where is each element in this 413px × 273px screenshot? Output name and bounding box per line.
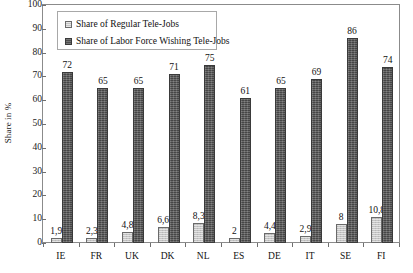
y-axis-tick-label: 0 (8, 238, 42, 248)
x-axis-tick-mark (399, 243, 400, 247)
bar-value-label: 65 (268, 77, 293, 87)
x-axis-label-it: IT (292, 252, 328, 262)
bar-value-label: 72 (55, 61, 80, 71)
legend-item-regular-tele-jobs: Share of Regular Tele-Jobs (65, 17, 210, 32)
x-axis-tick-mark (114, 243, 115, 247)
legend: Share of Regular Tele-Jobs Share of Labo… (57, 11, 217, 50)
bar-value-label: 71 (162, 63, 187, 73)
bar-value-label: 65 (90, 77, 115, 87)
y-axis-tick-mark (42, 124, 46, 125)
legend-swatch-icon-light (65, 21, 72, 28)
y-axis-tick-label: 80 (8, 48, 42, 58)
bar-chart: Share in % 1009080706050403020100 1,9722… (0, 0, 413, 273)
x-axis-label-fr: FR (79, 252, 115, 262)
x-axis-label-de: DE (257, 252, 293, 262)
bar-ie-series-1 (51, 238, 62, 243)
bar-es-series-1 (229, 238, 240, 243)
legend-item-wishing-tele-jobs: Share of Labor Force Wishing Tele-Jobs (65, 34, 210, 49)
legend-label-wishing-tele-jobs: Share of Labor Force Wishing Tele-Jobs (76, 37, 229, 47)
bar-value-label: 86 (340, 27, 365, 37)
y-axis-tick-label: 10 (8, 214, 42, 224)
bar-fi-series-2 (382, 67, 393, 243)
x-axis-label-es: ES (221, 252, 257, 262)
y-axis-tick-label: 30 (8, 167, 42, 177)
bar-value-label: 74 (375, 56, 400, 66)
bar-uk-series-2 (133, 88, 144, 243)
bar-fr-series-1 (86, 238, 97, 243)
y-axis-tick-mark (42, 76, 46, 77)
y-axis-tick-label: 70 (8, 72, 42, 82)
bar-nl-series-1 (193, 223, 204, 243)
bar-fi-series-1 (371, 217, 382, 243)
bar-value-label: 61 (233, 87, 258, 97)
x-axis-tick-mark (257, 243, 258, 247)
y-axis-tick-label: 50 (8, 119, 42, 129)
x-axis-label-nl: NL (185, 252, 221, 262)
bar-nl-series-2 (204, 65, 215, 244)
bar-es-series-2 (240, 98, 251, 243)
bar-de-series-2 (275, 88, 286, 243)
y-axis-tick-mark (42, 29, 46, 30)
x-axis-tick-mark (221, 243, 222, 247)
bar-ie-series-2 (62, 72, 73, 243)
y-axis-tick-mark (42, 100, 46, 101)
y-axis-tick-mark (42, 172, 46, 173)
bar-value-label: 65 (126, 77, 151, 87)
bar-de-series-1 (264, 233, 275, 243)
x-axis-label-dk: DK (150, 252, 186, 262)
y-axis-tick-mark (42, 243, 46, 244)
legend-swatch-icon-dark (65, 38, 72, 45)
bar-uk-series-1 (122, 232, 133, 243)
x-axis-label-uk: UK (114, 252, 150, 262)
y-axis-tick-mark (42, 5, 46, 6)
x-axis-tick-mark (150, 243, 151, 247)
x-axis-tick-mark (363, 243, 364, 247)
y-axis-tick-mark (42, 53, 46, 54)
x-axis-label-ie: IE (43, 252, 79, 262)
bar-se-series-1 (336, 224, 347, 243)
y-axis-ticks: 1009080706050403020100 (0, 0, 42, 273)
bar-it-series-2 (311, 79, 322, 243)
bar-dk-series-2 (169, 74, 180, 243)
bar-it-series-1 (300, 236, 311, 243)
y-axis-tick-mark (42, 195, 46, 196)
y-axis-tick-label: 100 (8, 0, 42, 10)
x-axis-tick-mark (328, 243, 329, 247)
bar-value-label: 75 (197, 54, 222, 64)
y-axis-tick-label: 60 (8, 95, 42, 105)
y-axis-tick-label: 20 (8, 191, 42, 201)
bar-value-label: 69 (304, 68, 329, 78)
bar-fr-series-2 (97, 88, 108, 243)
x-axis-tick-mark (292, 243, 293, 247)
x-axis-label-fi: FI (363, 252, 399, 262)
x-axis-label-se: SE (328, 252, 364, 262)
x-axis-tick-mark (185, 243, 186, 247)
legend-label-regular-tele-jobs: Share of Regular Tele-Jobs (76, 20, 179, 30)
x-axis-tick-mark (79, 243, 80, 247)
bar-dk-series-1 (158, 227, 169, 243)
bar-se-series-2 (347, 38, 358, 243)
y-axis-tick-label: 40 (8, 143, 42, 153)
y-axis-tick-mark (42, 148, 46, 149)
y-axis-tick-mark (42, 219, 46, 220)
y-axis-tick-label: 90 (8, 24, 42, 34)
